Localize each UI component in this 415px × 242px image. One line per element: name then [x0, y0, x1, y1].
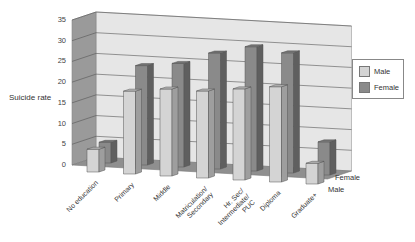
y-tick: 15: [52, 98, 66, 107]
bar-male-2: [160, 87, 178, 176]
bar-male-6: [306, 161, 324, 184]
y-tick: 5: [52, 139, 66, 148]
legend-swatch-female: [359, 82, 370, 93]
depth-label-female: Female: [335, 173, 360, 182]
legend-swatch-male: [359, 66, 370, 77]
side-wall: [72, 12, 96, 165]
bar-male-4: [233, 87, 251, 180]
legend-item-male: Male: [359, 66, 390, 77]
y-tick: 0: [52, 160, 66, 169]
y-tick: 20: [52, 77, 66, 86]
legend-item-female: Female: [359, 82, 399, 93]
y-tick: 25: [52, 56, 66, 65]
y-tick: 10: [52, 119, 66, 128]
bar-male-1: [124, 89, 142, 174]
legend-label-male: Male: [374, 67, 390, 76]
bar-male-3: [197, 89, 215, 178]
depth-label-male: Male: [328, 185, 344, 194]
legend-label-female: Female: [374, 83, 399, 92]
y-axis-label: Suicide rate: [9, 93, 51, 102]
y-tick: 35: [52, 15, 66, 24]
legend: Male Female: [352, 59, 404, 99]
bar-male-5: [270, 85, 288, 182]
y-tick: 30: [52, 36, 66, 45]
bar-male-0: [87, 147, 105, 172]
